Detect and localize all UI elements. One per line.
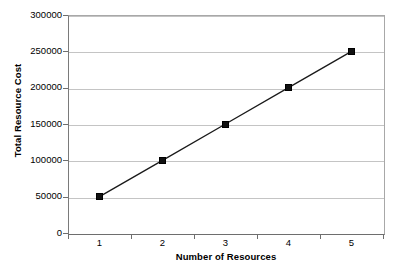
x-tick-label: 2: [148, 237, 178, 248]
y-axis-tick: [63, 15, 68, 16]
y-axis-tick: [63, 88, 68, 89]
y-tick-label: 200000: [6, 82, 62, 92]
x-tick-label: 1: [85, 237, 115, 248]
gridline: [69, 52, 384, 53]
data-point-marker: [348, 48, 355, 55]
gridline: [69, 161, 384, 162]
y-tick-label: 100000: [6, 155, 62, 165]
y-axis-tick: [63, 51, 68, 52]
x-tick-label: 3: [211, 237, 241, 248]
chart-container: Total Resource Cost 300000 250000 200000…: [0, 0, 395, 267]
y-tick-label: 150000: [6, 119, 62, 129]
data-point-marker: [222, 121, 229, 128]
y-axis-tick: [63, 197, 68, 198]
y-axis-tick: [63, 124, 68, 125]
y-tick-label: 300000: [6, 10, 62, 20]
y-tick-label: 50000: [6, 191, 62, 201]
gridline: [69, 198, 384, 199]
data-point-marker: [285, 84, 292, 91]
x-tick-label: 4: [274, 237, 304, 248]
x-tick-label: 5: [337, 237, 367, 248]
data-point-marker: [96, 193, 103, 200]
y-tick-label: 250000: [6, 46, 62, 56]
y-axis-tick: [63, 160, 68, 161]
x-axis-tick: [194, 234, 195, 239]
x-axis-tick: [383, 234, 384, 239]
x-axis-tick: [257, 234, 258, 239]
y-tick-label: 0: [6, 228, 62, 238]
x-axis-tick: [68, 234, 69, 239]
gridline: [69, 16, 384, 17]
data-point-marker: [159, 157, 166, 164]
x-axis-title: Number of Resources: [68, 251, 384, 262]
x-axis-tick: [320, 234, 321, 239]
gridline: [69, 89, 384, 90]
x-axis-tick: [131, 234, 132, 239]
